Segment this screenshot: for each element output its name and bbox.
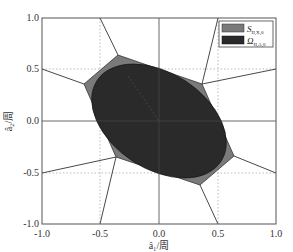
chart: 1.0 0.5 0.0 -0.5 -1.0 -1.0 -0.5 0.0 0.5 … (0, 0, 293, 252)
y-axis-label: â₂/周 (3, 111, 14, 132)
svg-text:1.0: 1.0 (27, 12, 40, 23)
svg-text:0.5: 0.5 (212, 228, 225, 239)
svg-text:1.0: 1.0 (270, 228, 283, 239)
svg-text:-0.5: -0.5 (23, 167, 39, 178)
y-ticks: 1.0 0.5 0.0 -0.5 -1.0 (23, 12, 39, 229)
legend: SII,X,0 ΩII,A,0 (219, 21, 273, 48)
x-axis-label: â₁/周 (149, 240, 170, 251)
legend-swatch-ellipse (222, 36, 244, 44)
svg-text:0.0: 0.0 (153, 228, 166, 239)
x-ticks: -1.0 -0.5 0.0 0.5 1.0 (34, 228, 282, 239)
legend-swatch-hexagon (222, 24, 244, 32)
svg-text:-1.0: -1.0 (34, 228, 50, 239)
svg-text:0.0: 0.0 (27, 115, 40, 126)
svg-text:-0.5: -0.5 (92, 228, 108, 239)
svg-text:0.5: 0.5 (27, 63, 40, 74)
zero-lines (42, 18, 276, 224)
